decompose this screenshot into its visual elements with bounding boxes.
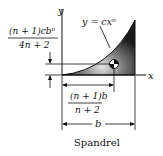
x-axis-label: x	[148, 70, 154, 81]
width-label: b	[95, 118, 101, 129]
curve-label: y = cxⁿ	[81, 16, 116, 27]
centroid-icon	[110, 60, 119, 69]
curve-label-leader	[100, 26, 110, 48]
spandrel-area	[62, 20, 135, 75]
diagram-title: Spandrel	[74, 137, 120, 148]
spandrel-diagram: y x y = cxⁿ (n + 1)cbⁿ 4n + 2 (n + 1)b n…	[0, 0, 163, 156]
ybar-denominator: 4n + 2	[18, 40, 50, 50]
xbar-numerator: (n + 1)b	[70, 91, 108, 101]
y-axis-label: y	[57, 5, 64, 16]
xbar-denominator: n + 2	[75, 105, 100, 115]
ybar-numerator: (n + 1)cbⁿ	[9, 26, 56, 36]
